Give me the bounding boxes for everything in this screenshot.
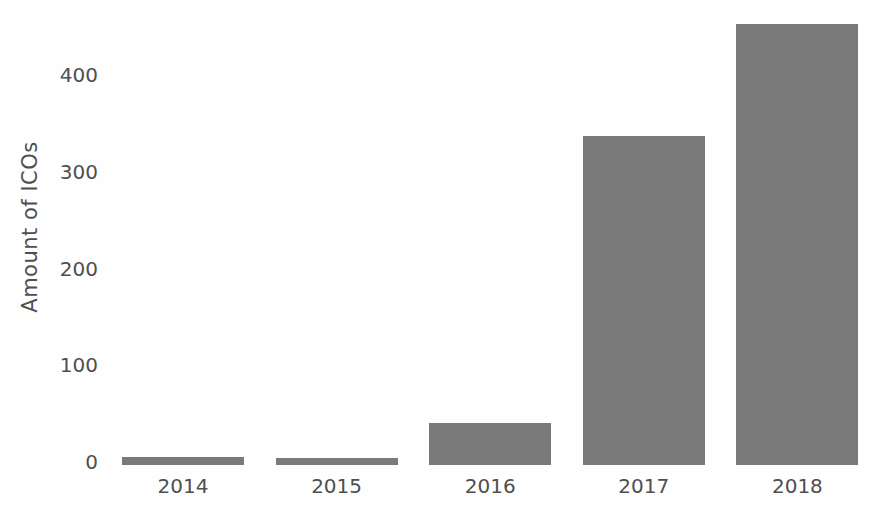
x-tick-label-2016: 2016 <box>465 476 516 496</box>
x-tick-label-2018: 2018 <box>772 476 823 496</box>
bar-2014 <box>122 457 244 465</box>
bar-2016 <box>429 423 551 465</box>
x-tick-label-2017: 2017 <box>618 476 669 496</box>
bar-2017 <box>583 136 705 465</box>
x-tick-label-2015: 2015 <box>311 476 362 496</box>
bar-2018 <box>736 24 858 465</box>
bar-2015 <box>276 458 398 465</box>
ico-bar-chart: Amount of ICOs 0100200300400 20142015201… <box>0 0 885 523</box>
plot-area: 20142015201620172018 <box>0 0 885 523</box>
x-tick-label-2014: 2014 <box>158 476 209 496</box>
